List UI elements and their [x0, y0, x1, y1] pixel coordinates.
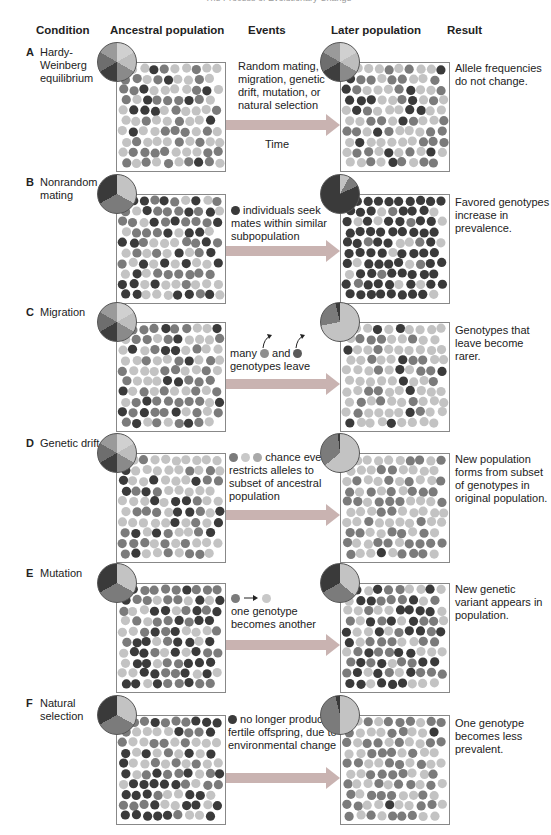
row-migration: C Migration many and genotypes leave Gen… — [0, 300, 551, 430]
becomes-arrow-icon — [243, 594, 259, 602]
dark-genotype-icon — [231, 206, 240, 215]
column-header-ancestral: Ancestral population — [110, 24, 224, 36]
time-arrow — [226, 638, 340, 652]
time-arrow — [226, 771, 340, 785]
later-pie-chart — [320, 433, 360, 473]
light-genotype-icon — [253, 453, 262, 462]
result-text: New population forms from subset of geno… — [455, 453, 551, 505]
later-population-square — [340, 715, 450, 825]
ancestral-pie-chart — [97, 174, 137, 214]
later-pie-chart — [320, 174, 360, 214]
ancestral-population-square — [116, 715, 226, 825]
dark-genotype-icon — [228, 715, 237, 724]
later-pie-chart — [320, 42, 360, 82]
row-natural-selection: F Natural selection no longer produces f… — [0, 691, 551, 821]
events-mid: and — [272, 347, 290, 359]
medium-genotype-icon — [260, 349, 269, 358]
running-head: The Process of Evolutionary Change — [205, 0, 352, 3]
events-text: one genotype becomes another — [231, 592, 341, 631]
time-arrow — [226, 118, 340, 132]
column-header-events: Events — [248, 24, 286, 36]
later-population-square — [340, 583, 450, 693]
leave-arrow-icon — [261, 333, 273, 349]
result-text: Allele frequencies do not change. — [455, 62, 551, 88]
light-genotype-icon — [262, 594, 271, 603]
events-text: many and genotypes leave — [230, 347, 340, 373]
events-suffix: genotypes leave — [230, 360, 310, 372]
result-text: Genotypes that leave become rarer. — [455, 324, 551, 363]
row-hardy-weinberg: A Hardy-Weinberg equilibrium Random mati… — [0, 40, 551, 170]
column-header-condition: Condition — [36, 24, 90, 36]
row-letter: B — [26, 176, 34, 189]
leave-arrow-icon — [294, 333, 306, 349]
row-nonrandom-mating: B Nonrandom mating individuals seek mate… — [0, 170, 551, 300]
ancestral-pie-chart — [97, 563, 137, 603]
row-letter: D — [26, 437, 34, 450]
dark-genotype-icon — [293, 349, 302, 358]
ancestral-pie-chart — [97, 302, 137, 342]
medium-genotype-icon — [229, 453, 238, 462]
time-arrow — [226, 244, 340, 258]
ancestral-pie-chart — [97, 695, 137, 735]
row-mutation: E Mutation one genotype becomes another … — [0, 561, 551, 691]
row-letter: A — [26, 46, 34, 59]
light-genotype-icon — [241, 453, 250, 462]
row-letter: F — [26, 697, 33, 710]
later-population-square — [340, 453, 450, 563]
ancestral-population-square — [116, 453, 226, 563]
ancestral-population-square — [116, 194, 226, 304]
ancestral-population-square — [116, 583, 226, 693]
row-letter: E — [26, 567, 33, 580]
column-header-later: Later population — [331, 24, 421, 36]
events-text: individuals seek mates within similar su… — [231, 204, 341, 243]
result-text: Favored genotypes increase in prevalence… — [455, 196, 551, 235]
time-label: Time — [265, 138, 289, 150]
row-letter: C — [26, 306, 34, 319]
medium-genotype-icon — [231, 594, 240, 603]
later-pie-chart — [320, 695, 360, 735]
events-label: one genotype becomes another — [231, 605, 316, 630]
events-label: individuals seek mates within similar su… — [231, 204, 327, 242]
time-arrow — [226, 377, 340, 391]
result-text: One genotype becomes less prevalent. — [455, 717, 551, 756]
later-population-square — [340, 322, 450, 432]
later-pie-chart — [320, 563, 360, 603]
ancestral-population-square — [116, 62, 226, 172]
ancestral-pie-chart — [97, 42, 137, 82]
result-text: New genetic variant appears in populatio… — [455, 583, 551, 622]
later-population-square — [340, 194, 450, 304]
row-genetic-drift: D Genetic drift chance event restricts a… — [0, 431, 551, 561]
time-arrow — [226, 508, 340, 522]
later-population-square — [340, 62, 450, 172]
ancestral-pie-chart — [97, 433, 137, 473]
ancestral-population-square — [116, 322, 226, 432]
events-prefix: many — [230, 347, 257, 359]
column-header-result: Result — [447, 24, 482, 36]
later-pie-chart — [320, 302, 360, 342]
